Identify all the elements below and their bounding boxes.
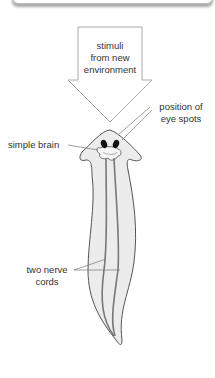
leader-eye-spots-2 xyxy=(122,110,152,140)
brain-label-text: simple brain xyxy=(8,139,59,150)
brain-label: simple brain xyxy=(8,139,59,151)
arrow-label: stimuli from new environment xyxy=(76,40,144,76)
flatworm-body xyxy=(80,130,141,345)
arrow-label-line-3: environment xyxy=(76,64,144,76)
nerve-cords-label-line-1: two nerve xyxy=(20,264,74,276)
eye-spots-label-line-1: position of xyxy=(150,101,212,113)
eye-spots-label: position of eye spots xyxy=(150,101,212,125)
nerve-cords-label-line-2: cords xyxy=(20,276,74,288)
eye-spots-label-line-2: eye spots xyxy=(150,113,212,125)
arrow-label-line-2: from new xyxy=(76,52,144,64)
nerve-cords-label: two nerve cords xyxy=(20,264,74,288)
arrow-label-line-1: stimuli xyxy=(76,40,144,52)
leader-eye-spots-1 xyxy=(118,107,150,135)
